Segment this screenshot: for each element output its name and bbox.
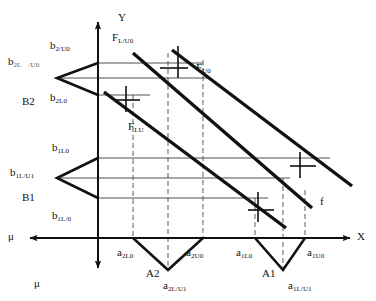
axis-label-x: X bbox=[357, 231, 365, 242]
label-b2-middle: b2L/U0 bbox=[8, 52, 39, 69]
label-b2-upper: b2/U0 bbox=[50, 36, 70, 53]
label-f-lower: FLU bbox=[128, 117, 144, 134]
label-f-middle: FU0 bbox=[196, 58, 211, 75]
label-zone-a1: A1 bbox=[262, 268, 275, 279]
axis-label-mu-down: μ bbox=[34, 278, 40, 289]
label-f-upper: FL/U0 bbox=[112, 28, 133, 45]
label-zone-b1: B1 bbox=[22, 192, 35, 203]
label-f-small: f bbox=[320, 196, 324, 207]
axis-label-mu-left: μ bbox=[8, 231, 14, 242]
label-zone-b2: B2 bbox=[22, 96, 35, 107]
label-a2-left: a2L0 bbox=[117, 243, 133, 260]
label-b1-upper: b1L0 bbox=[52, 138, 69, 155]
f-line-upper bbox=[133, 53, 312, 208]
axis-label-y: Y bbox=[118, 12, 126, 23]
label-b1-lower: b1L/0 bbox=[52, 206, 71, 223]
label-zone-a2: A2 bbox=[146, 268, 159, 279]
label-a1-left: a1L0 bbox=[236, 243, 252, 260]
label-b1-middle: b1L/U1 bbox=[10, 163, 34, 180]
label-a1-apex: a1L/U1 bbox=[288, 276, 312, 293]
label-a2-apex: a2L/U1 bbox=[163, 276, 187, 293]
label-a1-right: a1U0 bbox=[307, 243, 324, 260]
diagram-canvas: Y X μ μ b2/U0 b2L/U0 b2L0 B2 b1L0 b1L/U1… bbox=[0, 0, 376, 301]
label-a2-right: a2U0 bbox=[186, 243, 203, 260]
zone-a1-triangle bbox=[255, 238, 305, 270]
label-b2-lower: b2L0 bbox=[50, 88, 67, 105]
